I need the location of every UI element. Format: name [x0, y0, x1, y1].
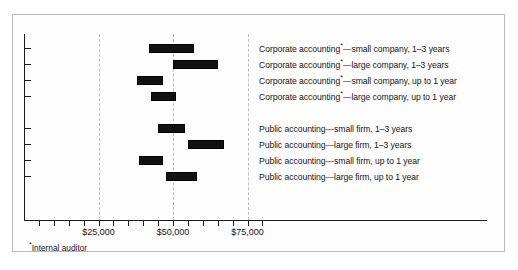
y-axis-tick: [24, 64, 31, 65]
series-label-prefix: Public accounting: [259, 140, 326, 150]
x-axis-tick: [113, 221, 114, 226]
series-label-prefix: Public accounting: [259, 156, 326, 166]
series-label: Public accounting—small firm, 1–3 years: [259, 124, 412, 134]
y-axis-tick: [24, 176, 31, 177]
bar-range: [166, 172, 197, 181]
y-axis-tick: [24, 128, 31, 129]
x-axis-tick: [188, 221, 189, 226]
bar-range: [188, 140, 224, 149]
y-axis-tick: [24, 80, 31, 81]
series-label-suffix: —large company, 1–3 years: [343, 60, 449, 70]
series-label: Public accounting—small firm, up to 1 ye…: [259, 156, 420, 166]
x-tick-label: $25,000: [82, 227, 115, 237]
series-label-prefix: Corporate accounting: [259, 60, 340, 70]
series-label-prefix: Corporate accounting: [259, 44, 340, 54]
x-axis-tick: [233, 221, 234, 226]
x-axis-tick: [39, 221, 40, 226]
x-tick-label: $50,000: [157, 227, 190, 237]
chart-frame: Corporate accounting*—small company, 1–3…: [12, 14, 505, 252]
gridline: [99, 34, 101, 220]
y-axis-tick: [24, 144, 31, 145]
series-label-suffix: —large firm, up to 1 year: [326, 172, 419, 182]
bar-range: [139, 156, 163, 165]
series-label-suffix: —small firm, up to 1 year: [326, 156, 420, 166]
x-axis-tick: [173, 221, 174, 226]
x-axis-tick: [248, 221, 249, 226]
series-label: Corporate accounting*—large company, up …: [259, 92, 456, 102]
series-label-suffix: —large firm, 1–3 years: [326, 140, 412, 150]
x-axis-tick: [158, 221, 159, 226]
series-label-prefix: Public accounting: [259, 124, 326, 134]
x-axis-tick: [54, 221, 55, 226]
x-axis-tick: [262, 221, 263, 226]
x-axis-tick: [128, 221, 129, 226]
x-axis-tick: [218, 221, 219, 226]
x-axis-tick: [203, 221, 204, 226]
bar-range: [149, 44, 194, 53]
bar-range: [137, 76, 162, 85]
footnote: *Internal auditor: [29, 243, 87, 253]
y-axis-tick: [24, 160, 31, 161]
y-axis-tick: [24, 96, 31, 97]
x-axis-tick: [84, 221, 85, 226]
series-label-prefix: Corporate accounting: [259, 76, 340, 86]
series-label-suffix: —small firm, 1–3 years: [326, 124, 413, 134]
x-axis-tick: [69, 221, 70, 226]
bar-range: [173, 60, 218, 69]
x-axis-tick: [99, 221, 100, 226]
x-axis-line: [24, 220, 487, 221]
series-label-suffix: —large company, up to 1 year: [343, 92, 456, 102]
y-axis-tick: [24, 48, 31, 49]
series-label: Public accounting—large firm, up to 1 ye…: [259, 172, 419, 182]
series-label-prefix: Public accounting: [259, 172, 326, 182]
series-label: Public accounting—large firm, 1–3 years: [259, 140, 411, 150]
bar-range: [158, 124, 185, 133]
y-axis-line: [24, 34, 25, 220]
x-axis-tick: [143, 221, 144, 226]
x-tick-label: $75,000: [231, 227, 264, 237]
bar-range: [151, 92, 176, 101]
series-label-prefix: Corporate accounting: [259, 92, 340, 102]
plot-area: Corporate accounting*—small company, 1–3…: [13, 15, 504, 251]
series-label-suffix: —small company, 1–3 years: [343, 44, 450, 54]
footnote-text: Internal auditor: [32, 243, 87, 253]
series-label-suffix: —small company, up to 1 year: [343, 76, 457, 86]
series-label: Corporate accounting*—small company, up …: [259, 76, 457, 86]
series-label: Corporate accounting*—large company, 1–3…: [259, 60, 448, 70]
gridline: [248, 34, 250, 220]
series-label: Corporate accounting*—small company, 1–3…: [259, 44, 449, 54]
